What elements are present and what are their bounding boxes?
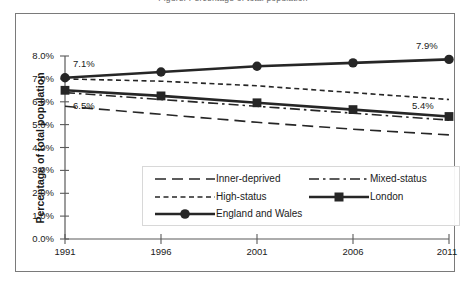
series-markers-england-and-wales xyxy=(60,55,453,83)
x-tick-label-1996: 1996 xyxy=(138,246,184,257)
legend-swatch-london xyxy=(309,193,369,202)
y-tick-label-7: 7.0% xyxy=(20,73,54,84)
figure-caption: Figure: Percentage of total population xyxy=(0,0,466,5)
y-tick-label-8: 8.0% xyxy=(20,50,54,61)
y-tick-label-3: 3.0% xyxy=(20,164,54,175)
chart-legend: Inner-deprived Mixed-status High-status … xyxy=(142,166,460,226)
data-label-london-1991: 6.5% xyxy=(73,100,95,111)
y-tick-label-4: 4.0% xyxy=(20,142,54,153)
x-tick-label-2001: 2001 xyxy=(234,246,280,257)
legend-swatch-england-and-wales xyxy=(155,209,215,219)
chart-figure: Figure: Percentage of total population P… xyxy=(0,0,466,286)
legend-label-london: London xyxy=(370,191,403,202)
y-tick-label-1: 1.0% xyxy=(20,210,54,221)
series-line-inner-deprived xyxy=(65,106,449,135)
y-tick-label-6: 6.0% xyxy=(20,96,54,107)
data-label-england-2011: 7.9% xyxy=(416,40,438,51)
x-tick-label-2011: 2011 xyxy=(424,246,466,257)
legend-label-inner-deprived: Inner-deprived xyxy=(216,173,280,184)
plot-area xyxy=(16,14,454,271)
y-tick-label-2: 2.0% xyxy=(20,187,54,198)
legend-label-england-and-wales: England and Wales xyxy=(216,208,302,219)
data-label-london-2011: 5.4% xyxy=(412,100,434,111)
x-tick-label-1991: 1991 xyxy=(42,246,88,257)
data-label-england-1991: 7.1% xyxy=(73,58,95,69)
y-tick-label-0: 0.0% xyxy=(20,233,54,244)
legend-label-high-status: High-status xyxy=(216,191,267,202)
y-tick-label-5: 5.0% xyxy=(20,119,54,130)
x-tick-label-2006: 2006 xyxy=(330,246,376,257)
series-line-high-status xyxy=(65,79,449,100)
chart-frame: Percentage of total population xyxy=(15,13,455,272)
legend-label-mixed-status: Mixed-status xyxy=(370,173,427,184)
